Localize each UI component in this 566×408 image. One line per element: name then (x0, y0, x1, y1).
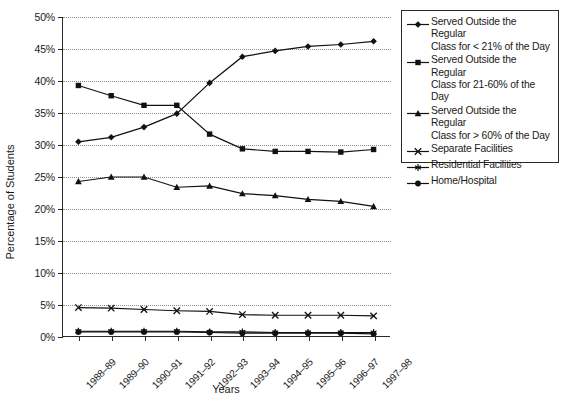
legend-label-5: Home/Hospital (431, 175, 497, 187)
y-axis-tick (58, 177, 63, 178)
legend-item-5[interactable]: Home/Hospital (405, 175, 554, 190)
gridline (63, 113, 391, 114)
x-axis-title: Years (62, 383, 390, 395)
marker-square (415, 60, 420, 65)
gridline (63, 17, 391, 18)
y-axis-tick (58, 17, 63, 18)
legend-marker-triangle-icon (405, 107, 431, 120)
legend-label-4: Residential Facilities (431, 159, 522, 171)
legend-item-0[interactable]: Served Outside the RegularClass for < 21… (405, 16, 554, 53)
legend-marker-square-icon (405, 56, 431, 69)
legend: Served Outside the RegularClass for < 21… (401, 10, 559, 163)
legend-item-4[interactable]: Residential Facilities (405, 159, 554, 174)
y-axis-tick (58, 241, 63, 242)
x-axis-tick (112, 336, 113, 341)
y-axis-tick (58, 209, 63, 210)
y-axis-tick (58, 81, 63, 82)
plot-area: 0%5%10%15%20%25%30%35%40%45%50% 1988–891… (62, 17, 390, 337)
y-axis-tick-label: 35% (35, 107, 55, 119)
y-axis-tick (58, 49, 63, 50)
y-axis-tick-label: 50% (35, 11, 55, 23)
gridline (63, 209, 391, 210)
legend-label-0: Served Outside the RegularClass for < 21… (431, 16, 554, 53)
y-axis-tick-label: 15% (35, 235, 55, 247)
y-axis-tick-label: 25% (35, 171, 55, 183)
x-axis-tick (145, 336, 146, 341)
y-axis-tick-label: 45% (35, 43, 55, 55)
y-axis-tick (58, 113, 63, 114)
gridline (63, 49, 391, 50)
legend-marker-diamond-icon (405, 18, 431, 31)
legend-item-2[interactable]: Served Outside the RegularClass for > 60… (405, 105, 554, 142)
x-axis-tick (309, 336, 310, 341)
y-axis-tick-label: 20% (35, 203, 55, 215)
y-axis-tick (58, 273, 63, 274)
x-axis-tick (243, 336, 244, 341)
legend-label-1: Served Outside the RegularClass for 21-6… (431, 54, 554, 104)
marker-diamond (415, 21, 422, 28)
legend-marker-x-icon (405, 145, 431, 158)
x-axis-tick (178, 336, 179, 341)
y-axis-tick (58, 145, 63, 146)
gridline (63, 81, 391, 82)
x-axis-tick (276, 336, 277, 341)
gridline (63, 145, 391, 146)
gridline (63, 241, 391, 242)
legend-label-3: Separate Facilities (431, 143, 513, 155)
legend-marker-asterisk-icon (405, 161, 431, 174)
y-axis-tick-label: 10% (35, 267, 55, 279)
gridline (63, 177, 391, 178)
gridline (63, 305, 391, 306)
y-axis-tick (58, 305, 63, 306)
marker-circle (415, 181, 421, 187)
chart-figure: Percentage of Students 0%5%10%15%20%25%3… (0, 0, 566, 408)
y-axis-tick (58, 337, 63, 338)
y-axis-tick-label: 30% (35, 139, 55, 151)
legend-item-1[interactable]: Served Outside the RegularClass for 21-6… (405, 54, 554, 104)
gridline (63, 273, 391, 274)
legend-label-2: Served Outside the RegularClass for > 60… (431, 105, 554, 142)
y-axis-tick-label: 40% (35, 75, 55, 87)
legend-marker-circle-icon (405, 177, 431, 190)
x-axis-tick (79, 336, 80, 341)
x-axis-tick (342, 336, 343, 341)
legend-item-3[interactable]: Separate Facilities (405, 143, 554, 158)
x-axis-tick (211, 336, 212, 341)
x-axis-tick (375, 336, 376, 341)
y-axis-tick-label: 5% (40, 299, 55, 311)
y-axis-title: Percentage of Students (4, 122, 16, 282)
y-axis-tick-label: 0% (40, 331, 55, 343)
